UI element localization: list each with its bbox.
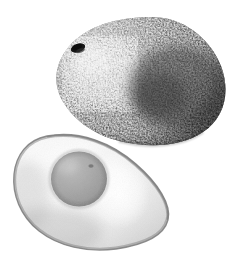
avocado-illustration [0, 0, 230, 263]
avocado-photo: Grayscale photograph of a whole Hass avo… [0, 0, 230, 263]
